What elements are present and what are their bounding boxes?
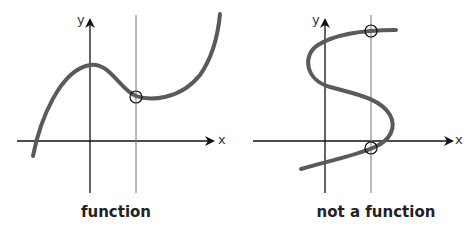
x-axis-label: x: [218, 132, 226, 147]
function-curve: [33, 14, 220, 156]
not-function-graph: [253, 15, 452, 193]
function-graph: [17, 14, 220, 193]
y-axis-label: y: [312, 12, 320, 27]
y-axis-label: y: [77, 12, 85, 27]
x-axis-label: x: [455, 132, 463, 147]
function-caption: function: [16, 203, 216, 221]
not-function-caption: not a function: [276, 203, 475, 221]
s-curve: [301, 30, 396, 169]
